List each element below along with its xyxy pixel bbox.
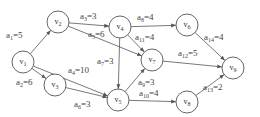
node-v4: v4 — [109, 16, 131, 38]
arrow-icon — [129, 100, 176, 101]
edge-label-a8: a8=4 — [137, 12, 154, 23]
edge-label-a4: a4=10 — [68, 65, 90, 76]
edge-label-a11: a11=4 — [135, 32, 155, 43]
node-v7: v7 — [141, 49, 163, 71]
arrow-icon — [118, 38, 119, 89]
edge-a12 — [163, 61, 222, 67]
edge-label-a9: a9=3 — [138, 77, 155, 88]
edge-label-a2: a2=6 — [16, 77, 33, 88]
edge-a10 — [129, 100, 176, 101]
node-v1: v1 — [12, 51, 34, 73]
edge-a3 — [69, 23, 109, 26]
edge-a6 — [66, 88, 108, 98]
edge-label-a5: a5=6 — [88, 29, 105, 40]
edge-label-a1: a1=5 — [6, 30, 23, 41]
edge-label-a10: a10=4 — [139, 88, 159, 99]
node-v8: v8 — [176, 91, 198, 113]
edge-label-a6: a6=3 — [74, 99, 91, 110]
nodes-layer: v1v2v3v4v5v6v7v8v9 — [12, 11, 244, 113]
edge-a7 — [118, 38, 119, 89]
arrow-icon — [32, 68, 46, 78]
edge-label-a12: a12=5 — [178, 48, 198, 59]
node-v2: v2 — [47, 11, 69, 33]
arrow-icon — [69, 23, 109, 26]
arrow-icon — [131, 25, 176, 26]
node-v5: v5 — [107, 89, 129, 111]
edge-label-a3: a3=3 — [80, 11, 97, 22]
arrow-icon — [30, 30, 51, 53]
edge-label-a14: a14=4 — [204, 32, 224, 43]
edge-a1 — [30, 30, 51, 53]
arrow-icon — [163, 61, 222, 67]
edge-label-a7: a7=3 — [97, 56, 114, 67]
edge-a8 — [131, 25, 176, 26]
node-v3: v3 — [44, 74, 66, 96]
arrow-icon — [66, 88, 108, 98]
edge-label-a13: a13=2 — [203, 82, 223, 93]
edge-a2 — [32, 68, 46, 78]
node-v9: v9 — [222, 57, 244, 79]
directed-graph: v1v2v3v4v5v6v7v8v9 a1=5a2=6a3=3a4=10a5=6… — [0, 0, 260, 117]
node-v6: v6 — [176, 14, 198, 36]
